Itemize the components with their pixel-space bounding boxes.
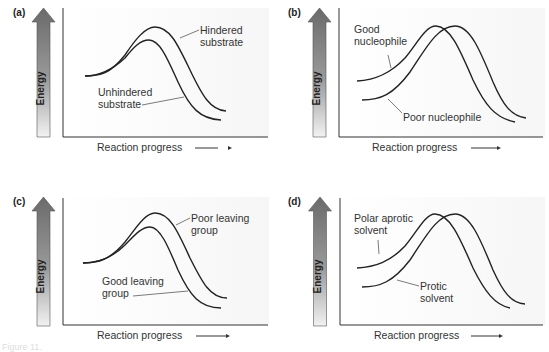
panel-b: (b) Energy Good nucleophile Poor nucleop… [275,0,549,170]
label-protic-solvent: Protic solvent [420,280,453,304]
x-axis-label: Reaction progress [372,141,457,153]
label-poor-leaving-group: Poor leaving group [191,212,249,236]
label-unhindered-substrate: Unhindered substrate [98,86,152,110]
panel-letter: (c) [13,196,25,207]
label-hindered-substrate: Hindered substrate [200,24,243,48]
x-axis-label: Reaction progress [97,329,182,341]
panel-d: (d) Energy Polar aprotic solvent Protic … [275,170,549,340]
figure-caption: Figure 11. [2,342,42,352]
x-axis-label: Reaction progress [97,141,182,153]
label-good-leaving-group: Good leaving group [102,275,164,299]
panel-letter: (d) [288,196,301,207]
energy-label: Energy [312,260,323,294]
panel-c: (c) Energy Poor leaving group Good leavi… [0,170,274,340]
energy-label: Energy [35,260,46,294]
label-polar-aprotic-solvent: Polar aprotic solvent [354,212,413,236]
label-good-nucleophile: Good nucleophile [354,23,407,47]
label-poor-nucleophile: Poor nucleophile [403,111,481,123]
energy-label: Energy [35,72,46,106]
energy-label: Energy [311,72,322,106]
panel-letter: (b) [288,7,301,18]
panel-a: (a) Energy Hindered substrate Unhindered… [0,0,274,170]
x-axis-label: Reaction progress [374,329,459,341]
panel-letter: (a) [13,7,25,18]
